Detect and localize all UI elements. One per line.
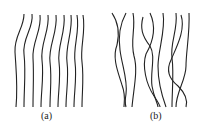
fiber-diagram: [0, 0, 204, 131]
panel-b-label: (b): [150, 110, 162, 121]
figure: (a) (b): [0, 0, 204, 131]
panel-a-lines: [15, 14, 84, 107]
panel-a-label: (a): [41, 110, 52, 121]
panel-b-lines: [112, 13, 189, 107]
